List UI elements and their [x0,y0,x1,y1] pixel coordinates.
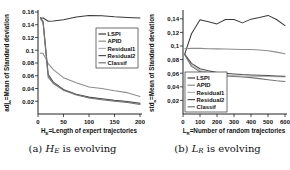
caption-a-suffix: is evolving [59,143,116,154]
x-tick-label: 200 [135,119,145,125]
y-tick-label: 0,02 [167,98,179,104]
y-tick-label: 0.02 [22,99,34,105]
y-tick-label: 0,12 [167,30,179,36]
x-tick-label: 0 [36,119,40,125]
y-tick-label: 0.04 [22,86,34,92]
plot-area-a: 0.020.040.060.080.10.120.140.16050100150… [0,2,145,140]
legend-label-residual1: Residual1 [197,90,226,96]
caption-b-suffix: is evolving [204,143,261,154]
x-tick-label: 400 [246,119,257,125]
caption-a-prefix: (a) [29,143,46,154]
x-tick-label: 0 [181,119,185,125]
x-tick-label: 100 [84,119,95,125]
x-axis-label: HE=Length of expert trajectories [41,127,138,136]
legend-label-apid: APID [108,38,122,44]
legend-label-apid: APID [197,82,211,88]
y-tick-label: 0,08 [167,57,179,63]
caption-a-var: H [45,143,54,154]
line-chart-b: 0,020,040,060,080,10,120,140100200300400… [145,2,290,140]
y-axis-label: adja=Mean of Standard deviation [3,14,12,112]
y-tick-label: 0.08 [22,60,34,66]
chart-legend: LSPIAPIDResidual1Residual2Classif [185,72,227,112]
x-tick-label: 300 [229,119,240,125]
y-tick-label: 0,14 [167,16,179,22]
y-tick-label: 0,06 [167,71,179,77]
legend-label-residual1: Residual1 [108,46,137,52]
caption-b-prefix: (b) [174,143,191,154]
figure-container: 0.020.040.060.080.10.120.140.16050100150… [0,0,290,170]
y-axis-label: stda=Mean of Standard deviation [148,14,157,112]
x-tick-label: 150 [109,119,120,125]
legend-label-classif: Classif [108,60,127,66]
chart-panel-a: 0.020.040.060.080.10.120.140.16050100150… [0,0,145,170]
series-line-apid [185,48,285,53]
chart-legend: LSPIAPIDResidual1Residual2Classif [96,28,138,68]
y-tick-label: 0,1 [171,43,180,49]
y-tick-label: 0.16 [22,9,34,15]
y-tick-label: 0.12 [22,35,34,41]
plot-area-b: 0,020,040,060,080,10,120,140100200300400… [145,2,290,140]
y-tick-label: 0.1 [26,48,35,54]
chart-panel-b: 0,020,040,060,080,10,120,140100200300400… [145,0,290,170]
y-tick-label: 0,04 [167,84,179,90]
y-tick-label: 0.06 [22,73,34,79]
x-tick-label: 50 [60,119,67,125]
line-chart-a: 0.020.040.060.080.10.120.140.16050100150… [0,2,145,140]
legend-label-classif: Classif [197,104,216,110]
x-tick-label: 100 [195,119,206,125]
x-tick-label: 200 [212,119,223,125]
legend-label-lspi: LSPI [197,75,210,81]
legend-label-lspi: LSPI [108,31,121,37]
caption-b: (b) LR is evolving [145,142,290,158]
legend-label-residual2: Residual2 [197,97,226,103]
y-tick-label: 0.14 [22,22,34,28]
legend-label-residual2: Residual2 [108,53,137,59]
x-tick-label: 600 [280,119,290,125]
caption-a: (a) HE is evolving [0,142,145,158]
x-axis-label: LR=Number of random trajectories [183,127,286,136]
series-line-lspi [41,16,140,22]
x-tick-label: 500 [263,119,274,125]
